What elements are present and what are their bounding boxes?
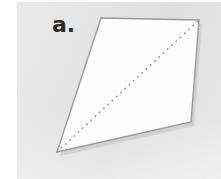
geometry-figure-svg [0,0,221,179]
figure-container: a. [0,0,221,179]
figure-label: a. [52,14,75,36]
